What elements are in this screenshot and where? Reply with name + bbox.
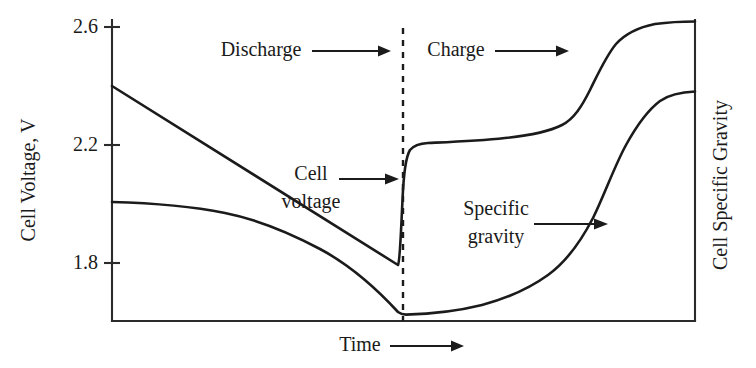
specific-gravity-label-line1: Specific	[463, 197, 529, 220]
axes-group	[104, 20, 695, 321]
y-tick-label-2: 1.8	[73, 251, 98, 273]
y-axis-left-label: Cell Voltage, V	[17, 118, 40, 241]
chart-svg: 2.6 2.2 1.8 Cell Voltage, V Cell Specifi…	[0, 0, 756, 368]
cell-voltage-arrow-head-icon	[385, 174, 399, 185]
cell-voltage-label-line2: voltage	[282, 190, 341, 213]
annotation-cell-voltage: Cell voltage	[282, 162, 399, 213]
charge-arrow-head-icon	[556, 46, 569, 57]
discharge-arrow-head-icon	[378, 46, 391, 57]
y-tick-label-0: 2.6	[73, 15, 98, 37]
specific-gravity-arrow-head-icon	[594, 219, 608, 230]
cell-voltage-curve	[112, 22, 695, 266]
charge-label: Charge	[427, 38, 485, 61]
x-axis-label-group: Time	[339, 333, 464, 355]
time-arrow-head-icon	[451, 341, 464, 352]
cell-voltage-label-line1: Cell	[294, 162, 328, 184]
specific-gravity-label-line2: gravity	[468, 225, 525, 248]
y-axis-right-label: Cell Specific Gravity	[709, 100, 732, 270]
y-tick-labels: 2.6 2.2 1.8	[73, 15, 98, 273]
annotation-discharge: Discharge	[221, 38, 391, 61]
annotation-specific-gravity: Specific gravity	[463, 197, 608, 248]
chart-figure: 2.6 2.2 1.8 Cell Voltage, V Cell Specifi…	[0, 0, 756, 368]
x-axis-label: Time	[339, 333, 381, 355]
annotation-charge: Charge	[427, 38, 569, 61]
discharge-label: Discharge	[221, 38, 302, 61]
y-tick-label-1: 2.2	[73, 133, 98, 155]
